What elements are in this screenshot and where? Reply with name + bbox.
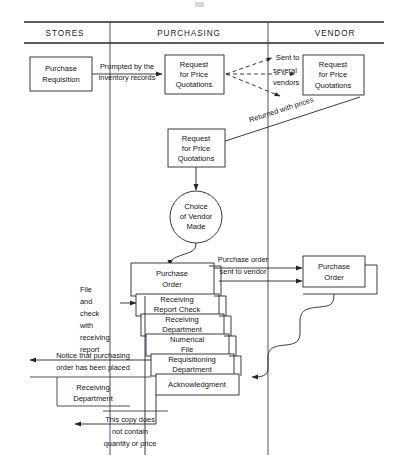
- node-po-vendor-line-1: Order: [324, 273, 344, 282]
- lane-label-vendor: VENDOR: [315, 29, 355, 38]
- node-nf-line-0: Numerical: [170, 335, 204, 344]
- node-purchase-requisition-line-1: Requisition: [42, 75, 80, 84]
- node-rrc-line-1: Report Check: [154, 305, 201, 314]
- node-rfq-returned-line-1: for Price: [182, 144, 210, 153]
- node-po-purchasing-line-0: Purchase: [156, 269, 188, 278]
- node-rfq-top-line-2: Quotations: [176, 80, 213, 89]
- edge-label-file-line-1: and: [80, 297, 92, 306]
- edge-label-file-line-4: receiving: [80, 333, 110, 342]
- edge-label-file-line-2: check: [80, 309, 100, 318]
- edge-label-prompted-line-0: Prompted by the: [100, 62, 154, 71]
- lane-label-stores: STORES: [46, 29, 85, 38]
- edge-label-file-line-0: File: [80, 285, 92, 294]
- node-rfq-top-line-0: Request: [180, 60, 209, 69]
- edge-choice-to-purchase-order: [170, 243, 196, 266]
- node-rfq-top-line-1: for Price: [180, 70, 208, 79]
- node-rq-line-1: Department: [172, 365, 213, 374]
- node-receiving-department-stores-line-0: Receiving: [76, 383, 109, 392]
- edge-label-thiscopy-line-0: This copy does: [105, 415, 155, 424]
- node-rdc-line-1: Department: [162, 325, 203, 334]
- edge-rfq-to-vendor-upper: [226, 58, 272, 74]
- edge-label-sent-line-2: vendors: [273, 78, 300, 87]
- purchasing-flowchart: STORES PURCHASING VENDOR Purchase Requis…: [0, 0, 405, 465]
- node-receiving-department-stores-line-1: Department: [73, 394, 114, 403]
- edge-label-po-sent-line-0: Purchase order: [218, 255, 269, 264]
- page-artifact: [195, 2, 204, 7]
- node-purchase-requisition-line-0: Purchase: [45, 64, 77, 73]
- edge-rfq-to-vendor-lower: [226, 74, 280, 96]
- node-rfq-vendor-line-1: for Price: [319, 70, 347, 79]
- node-purchase-order-vendor: [303, 256, 365, 287]
- edge-label-po-sent-line-1: sent to vendor: [220, 267, 267, 276]
- node-rdc-line-0: Receiving: [165, 315, 198, 324]
- edge-label-returned-with-prices: Returned with prices: [248, 95, 315, 124]
- node-rfq-returned-line-0: Request: [182, 134, 211, 143]
- node-rq-line-0: Requisitioning: [168, 355, 216, 364]
- edge-label-notice-line-0: Notice that purchasing: [56, 351, 130, 360]
- node-rfq-returned-line-2: Quotations: [178, 154, 215, 163]
- edge-label-sent-line-1: several: [273, 66, 297, 75]
- edge-vendor-acknowledgment-return: [252, 294, 334, 377]
- node-choice-line-0: Choice: [184, 202, 208, 211]
- edge-label-file-line-3: with: [79, 321, 93, 330]
- lane-label-purchasing: PURCHASING: [157, 29, 221, 38]
- node-purchase-requisition: [30, 57, 92, 91]
- edge-label-notice-line-1: order has been placed: [56, 363, 130, 372]
- node-choice-line-1: of Vendor: [180, 212, 213, 221]
- edge-label-sent-line-0: Sent to: [276, 53, 299, 62]
- node-po-vendor-line-0: Purchase: [318, 262, 350, 271]
- edge-label-thiscopy-line-2: quantity or price: [104, 439, 157, 448]
- node-choice-line-2: Made: [187, 222, 206, 231]
- node-rrc-line-0: Receiving: [160, 295, 193, 304]
- node-ack-line-0: Acknowledgment: [168, 380, 227, 389]
- node-po-purchasing-line-1: Order: [162, 280, 182, 289]
- edge-label-prompted-line-1: inventory records: [99, 73, 156, 82]
- edge-label-thiscopy-line-1: not contain: [112, 427, 148, 436]
- flowchart-canvas: STORES PURCHASING VENDOR Purchase Requis…: [0, 0, 405, 465]
- node-rfq-vendor-line-0: Request: [319, 60, 348, 69]
- node-rfq-vendor-line-2: Quotations: [315, 81, 352, 90]
- node-nf-line-1: File: [181, 345, 193, 354]
